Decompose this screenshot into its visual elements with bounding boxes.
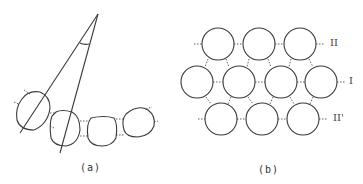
circle-row2p-3 [287,103,319,135]
circle-row2p-2 [246,103,278,135]
circle-row1-1 [181,66,213,98]
circle-row2-2 [243,28,275,60]
cell-1 [17,92,50,130]
row-label-top: II [330,37,338,48]
radial-line-right [60,14,98,153]
cell-3 [87,117,116,147]
circle-row1-4 [305,66,337,98]
caption-b: (b) [258,164,279,175]
circle-row2p-1 [205,103,237,135]
radial-line-left [20,14,98,133]
circle-row1-2 [223,66,255,98]
cell-2 [50,111,80,147]
circle-row2-3 [284,28,316,60]
row-label-bottom: II' [333,112,344,123]
panel-b-drawing [181,28,345,135]
diagram-canvas [0,0,363,184]
circle-row2-1 [202,28,234,60]
cell-4 [123,108,155,137]
panel-a-drawing [14,14,158,153]
angle-arc [80,43,89,44]
row-label-middle: I [349,75,353,86]
circle-row1-3 [265,66,297,98]
caption-a: (a) [80,162,101,173]
